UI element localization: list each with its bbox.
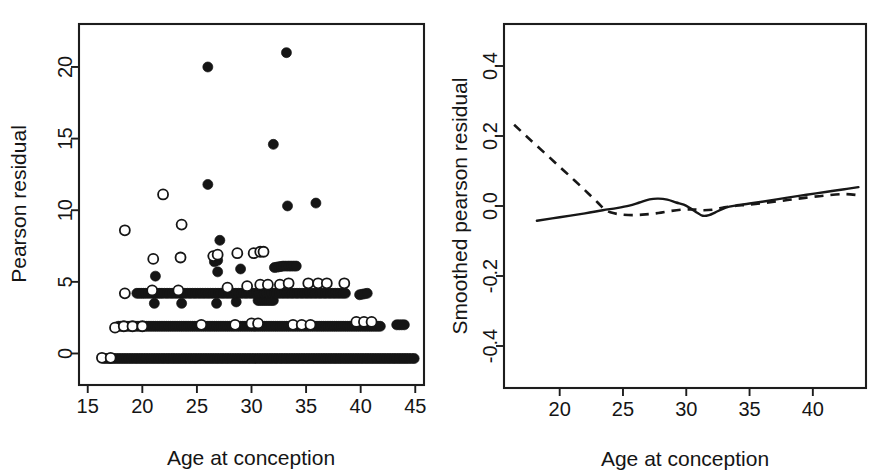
- scatter-point-open: [253, 318, 263, 328]
- scatter-point-filled: [203, 179, 213, 189]
- scatter-point-filled: [215, 235, 225, 245]
- left-plot-content: [97, 48, 419, 364]
- y-tick-label: 0: [54, 348, 76, 359]
- scatter-point-open: [222, 283, 232, 293]
- scatter-point-open: [230, 320, 240, 330]
- scatter-point-open: [120, 225, 130, 235]
- y-tick-label: -0.4: [479, 329, 501, 363]
- y-tick-label: 0.4: [479, 52, 501, 80]
- scatter-point-open: [158, 189, 168, 199]
- scatter-point-open: [176, 253, 186, 263]
- y-tick-label: 0.2: [479, 122, 501, 150]
- scatter-point-filled: [291, 261, 301, 271]
- x-tick-label: 40: [802, 398, 824, 420]
- x-tick-label: 35: [738, 398, 760, 420]
- x-tick-label: 25: [186, 395, 208, 417]
- scatter-point-open: [128, 321, 138, 331]
- x-tick-label: 40: [350, 395, 372, 417]
- scatter-point-filled: [212, 298, 222, 308]
- right-axes: 2025303540-0.4-0.20.00.20.4: [479, 52, 824, 420]
- scatter-point-filled: [268, 139, 278, 149]
- scatter-point-filled: [150, 271, 160, 281]
- scatter-point-open: [339, 278, 349, 288]
- x-tick-label: 20: [549, 398, 571, 420]
- y-tick-label: 10: [54, 199, 76, 221]
- right-plot-content: [514, 125, 858, 221]
- scatter-point-filled: [311, 198, 321, 208]
- right-y-axis-title: Smoothed pearson residual: [448, 78, 471, 335]
- scatter-point-filled: [399, 320, 409, 330]
- scatter-point-filled: [281, 48, 291, 58]
- x-tick-label: 30: [240, 395, 262, 417]
- scatter-point-filled: [236, 264, 246, 274]
- scatter-point-open: [242, 281, 252, 291]
- panel-right-smoothed: 2025303540-0.4-0.20.00.20.4 Age at conce…: [445, 0, 889, 475]
- scatter-point-open: [148, 254, 158, 264]
- left-y-axis-title: Pearson residual: [7, 125, 30, 283]
- scatter-point-open: [213, 250, 223, 260]
- y-tick-label: -0.2: [479, 259, 501, 293]
- x-tick-label: 45: [404, 395, 426, 417]
- scatter-point-open: [106, 353, 116, 363]
- scatter-point-open: [284, 278, 294, 288]
- scatter-point-open: [367, 317, 377, 327]
- scatter-point-filled: [340, 288, 350, 298]
- figure-container: 1520253035404505101520 Age at conception…: [0, 0, 889, 475]
- scatter-point-open: [263, 280, 273, 290]
- right-x-axis-title: Age at conception: [601, 447, 769, 470]
- scatter-point-filled: [409, 354, 419, 364]
- y-tick-label: 20: [54, 56, 76, 78]
- scatter-point-filled: [213, 267, 223, 277]
- scatter-point-filled: [203, 62, 213, 72]
- scatter-point-filled: [362, 288, 372, 298]
- scatter-point-open: [259, 247, 269, 257]
- scatter-point-filled: [177, 298, 187, 308]
- x-tick-label: 25: [612, 398, 634, 420]
- panel-left-scatter: 1520253035404505101520 Age at conception…: [0, 0, 445, 475]
- scatter-point-open: [173, 285, 183, 295]
- x-tick-label: 15: [77, 395, 99, 417]
- x-tick-label: 20: [131, 395, 153, 417]
- scatter-point-open: [196, 320, 206, 330]
- x-tick-label: 30: [675, 398, 697, 420]
- scatter-point-open: [322, 278, 332, 288]
- scatter-point-open: [120, 288, 130, 298]
- scatter-point-open: [232, 248, 242, 258]
- smoothed-dashed-curve: [514, 125, 858, 215]
- y-tick-label: 0.0: [479, 192, 501, 220]
- scatter-point-open: [177, 220, 187, 230]
- scatter-point-open: [303, 278, 313, 288]
- x-tick-label: 35: [295, 395, 317, 417]
- scatter-point-open: [147, 285, 157, 295]
- y-tick-label: 15: [54, 127, 76, 149]
- scatter-point-filled: [149, 298, 159, 308]
- right-panel-svg: 2025303540-0.4-0.20.00.20.4 Age at conce…: [445, 0, 889, 475]
- left-x-axis-title: Age at conception: [167, 446, 335, 469]
- left-panel-svg: 1520253035404505101520 Age at conception…: [0, 0, 445, 475]
- y-tick-label: 5: [54, 276, 76, 287]
- scatter-point-filled: [283, 201, 293, 211]
- scatter-point-open: [137, 321, 147, 331]
- scatter-point-open: [305, 320, 315, 330]
